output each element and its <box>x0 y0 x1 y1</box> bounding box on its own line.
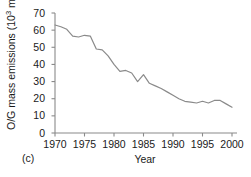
axis-lines <box>55 13 237 133</box>
x-axis-label: Year <box>55 153 235 165</box>
plot-area <box>0 0 251 177</box>
chart-figure: O/G mass emissions (103 mt) 010203040506… <box>0 0 251 177</box>
panel-label: (c) <box>22 152 34 164</box>
data-series-line <box>55 25 232 107</box>
